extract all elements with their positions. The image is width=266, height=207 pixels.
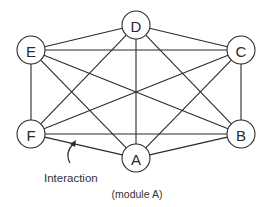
node-d: D (122, 11, 150, 39)
edge-d-f (41, 35, 127, 124)
edge-a-f (45, 137, 123, 155)
node-e: E (17, 36, 45, 64)
node-label: E (26, 43, 36, 60)
interaction-label: Interaction (44, 172, 98, 184)
interaction-arrow-icon (68, 143, 74, 163)
edge-a-b (150, 137, 228, 155)
interaction-annotation: Interaction (44, 140, 98, 184)
node-b: B (227, 120, 255, 148)
edge-c-d (150, 28, 228, 47)
edge-d-e (45, 28, 123, 47)
module-a-label: (module A) (112, 188, 163, 200)
node-label: B (236, 127, 246, 144)
node-label: D (131, 18, 142, 35)
node-a: A (122, 144, 150, 172)
node-c: C (227, 36, 255, 64)
edges-group (31, 28, 241, 155)
edge-a-e (41, 60, 126, 148)
node-label: F (26, 127, 35, 144)
node-f: F (17, 120, 45, 148)
complete-graph-diagram: ABCDEF Interaction (module A) (0, 0, 266, 207)
node-label: C (236, 43, 247, 60)
node-label: A (131, 151, 141, 168)
edge-b-d (146, 35, 232, 124)
edge-a-c (146, 60, 231, 148)
